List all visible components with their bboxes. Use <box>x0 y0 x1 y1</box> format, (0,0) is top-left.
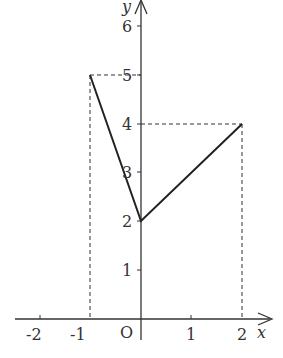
y-tick-label: 6 <box>122 17 132 36</box>
y-tick-label: 1 <box>122 261 132 280</box>
y-tick-label: 2 <box>122 212 132 231</box>
function-line <box>90 75 242 221</box>
y-tick-label: 3 <box>122 163 132 182</box>
x-axis-label: x <box>257 323 266 342</box>
graph: -2 -1 1 2 O x 1 2 3 4 5 6 y <box>0 0 283 358</box>
y-tick-label: 4 <box>122 115 132 134</box>
origin-label: O <box>120 323 133 342</box>
x-tick-label: -1 <box>70 325 86 344</box>
x-tick-label: 1 <box>186 325 196 344</box>
x-tick-label: -2 <box>26 325 42 344</box>
x-tick-label: 2 <box>237 325 247 344</box>
y-tick-label: 5 <box>122 66 132 85</box>
y-axis-label: y <box>121 0 132 16</box>
